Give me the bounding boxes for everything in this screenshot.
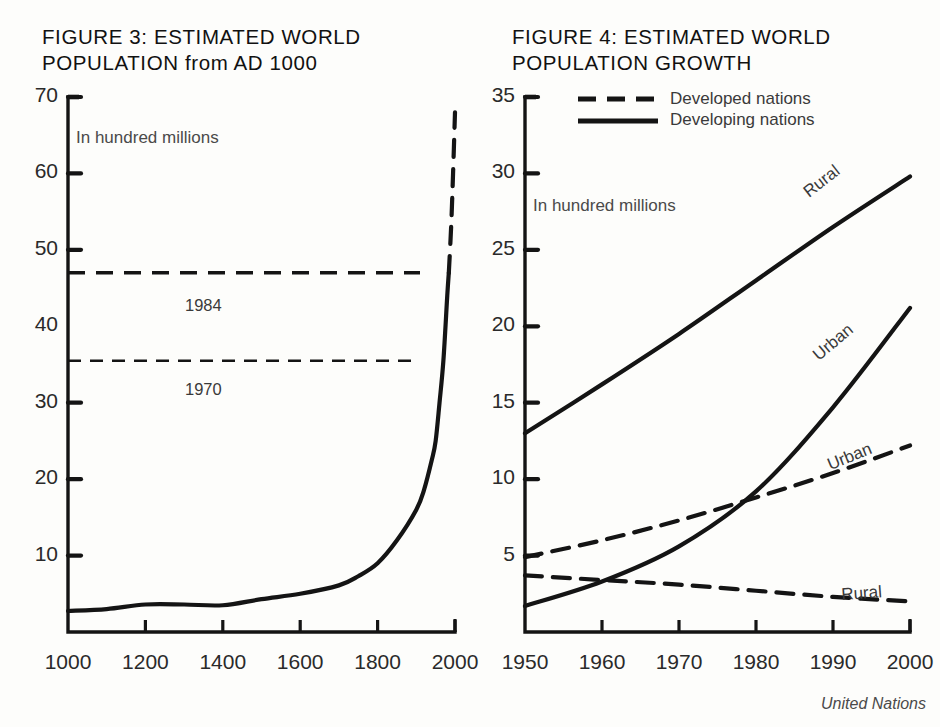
y-tick-label: 60 [12,159,58,183]
x-tick-label: 1950 [490,650,560,674]
y-tick-label: 10 [12,542,58,566]
x-tick-label: 1800 [343,650,413,674]
curve-label-developed-rural: Rural [841,582,883,605]
y-tick-label: 40 [12,312,58,336]
figure-3: FIGURE 3: ESTIMATED WORLD POPULATION fro… [0,0,470,727]
x-tick-label: 1600 [265,650,335,674]
x-tick-label: 1990 [798,650,868,674]
legend-label-developed: Developed nations [670,89,811,109]
y-tick-label: 25 [469,236,515,260]
y-tick-label: 10 [469,465,515,489]
y-tick-label: 30 [12,389,58,413]
figure-4-units-note: In hundred millions [533,196,676,216]
y-tick-label: 35 [469,83,515,107]
x-tick-label: 1000 [33,650,103,674]
figure-4: FIGURE 4: ESTIMATED WORLD POPULATION GRO… [470,0,940,727]
y-tick-label: 70 [12,83,58,107]
x-tick-label: 1400 [188,650,258,674]
x-tick-label: 2000 [875,650,940,674]
figure-3-units-note: In hundred millions [76,128,219,148]
y-tick-label: 20 [12,465,58,489]
x-tick-label: 1980 [721,650,791,674]
y-tick-label: 15 [469,389,515,413]
x-tick-label: 1970 [644,650,714,674]
figure-3-marker-1970: 1970 [185,380,222,399]
source-attribution: United Nations [821,695,926,713]
x-tick-label: 1200 [110,650,180,674]
y-tick-label: 50 [12,236,58,260]
y-tick-label: 30 [469,159,515,183]
figure-3-marker-1984: 1984 [185,296,222,315]
x-tick-label: 1960 [567,650,637,674]
figure-page: FIGURE 3: ESTIMATED WORLD POPULATION fro… [0,0,940,727]
legend-label-developing: Developing nations [670,110,815,130]
y-tick-label: 20 [469,312,515,336]
y-tick-label: 5 [469,542,515,566]
figure-3-plot [0,0,470,727]
